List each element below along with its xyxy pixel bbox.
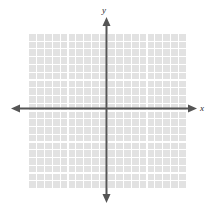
x-axis-left-arrowhead: [11, 105, 20, 113]
y-axis-label: y: [102, 6, 106, 15]
y-axis-top-arrowhead: [103, 17, 111, 26]
x-axis-right-arrowhead: [188, 105, 197, 113]
y-axis-group: [103, 17, 111, 203]
x-axis-group: [11, 105, 197, 113]
y-axis-bottom-arrowhead: [103, 194, 111, 203]
axes-layer: [0, 0, 214, 211]
x-axis-label: x: [200, 104, 204, 113]
coordinate-plane-figure: y x: [0, 0, 214, 211]
